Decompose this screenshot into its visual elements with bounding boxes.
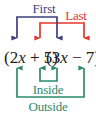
label-first: First [33,1,56,16]
foil-diagram-svg: First Last (2x + 5) (3x − 7) Inside Outs… [0,0,96,118]
inside-arrow-path [40,68,57,81]
label-inside: Inside [33,82,64,97]
last-connector [40,23,84,38]
last-arrow-path [40,23,84,38]
inside-connector [40,68,57,81]
expression-right-factor: (3x − 7) [46,48,96,67]
first-arrow-path [17,17,57,38]
foil-method-diagram: First Last (2x + 5) (3x − 7) Inside Outs… [0,0,96,118]
label-last: Last [65,8,87,23]
first-connector [17,17,57,38]
label-outside: Outside [28,99,67,114]
expression-group: (2x + 5) (3x − 7) [4,48,96,67]
